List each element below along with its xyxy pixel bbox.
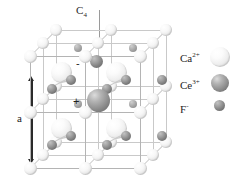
fluoride-ion [66, 75, 76, 85]
calcium-ion [37, 93, 49, 105]
fluoride-ion [157, 75, 167, 85]
calcium-ion [134, 162, 147, 175]
calcium-ion [37, 149, 49, 161]
calcium-ion [79, 106, 92, 119]
calcium-ion [147, 149, 159, 161]
fluoride-ion [66, 131, 76, 141]
lattice-arrow-shaft [31, 80, 33, 160]
legend-label-cerium: Ce3+ [180, 79, 200, 91]
calcium-ion [24, 50, 37, 63]
calcium-ion [24, 106, 37, 119]
fluoride-ion [157, 131, 167, 141]
calcium-ion [92, 149, 104, 161]
fluoride-ion [102, 140, 112, 150]
legend-label-fluoride: F- [180, 103, 188, 115]
calcium-ion [37, 37, 49, 49]
fluoride-ion [121, 131, 131, 141]
calcium-ion [24, 162, 37, 175]
legend-label-calcium: Ca2+ [180, 52, 200, 64]
positive-charge-marker: + [73, 96, 79, 107]
fluoride-ion [47, 140, 57, 150]
calcium-ion [79, 50, 92, 63]
calcium-ion [50, 24, 62, 36]
c4-axis-label: C4 [76, 5, 87, 19]
legend-swatch-calcium [210, 47, 230, 67]
calcium-ion [92, 37, 104, 49]
lattice-parameter-label: a [17, 113, 22, 124]
calcium-ion [147, 37, 159, 49]
legend-item-fluoride: F- [180, 103, 188, 115]
calcium-ion [134, 50, 147, 63]
legend-swatch-fluoride [214, 100, 225, 111]
crystal-structure-figure: C4 a [0, 0, 239, 179]
calcium-ion [134, 106, 147, 119]
legend-swatch-cerium [211, 74, 229, 92]
calcium-ion [160, 24, 172, 36]
calcium-ion [79, 162, 92, 175]
fluoride-ion [121, 75, 131, 85]
calcium-ion [105, 24, 117, 36]
calcium-ion [147, 93, 159, 105]
legend-item-calcium: Ca2+ [180, 52, 200, 64]
legend-item-cerium: Ce3+ [180, 79, 200, 91]
fluoride-ion [47, 84, 57, 94]
